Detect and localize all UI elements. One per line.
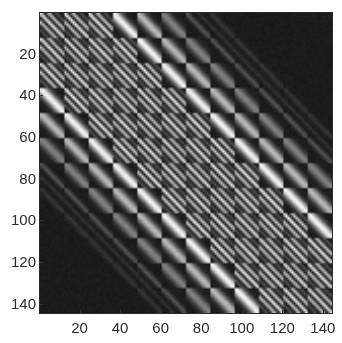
x-tick-label: 60 [152,320,169,335]
y-tick-mark [40,54,43,55]
heatmap-figure: 20 40 60 80 100 120 140 20 40 60 80 100 … [0,0,342,343]
y-tick-mark [40,262,43,263]
x-tick-label: 20 [71,320,88,335]
matrix-canvas [40,13,332,313]
x-tick-mark [201,310,202,313]
y-tick-label: 40 [19,87,36,102]
x-tick-label: 80 [193,320,210,335]
y-tick-label: 120 [11,254,36,269]
y-tick-mark [40,95,43,96]
x-tick-label: 140 [310,320,335,335]
y-tick-label: 20 [19,46,36,61]
matrix-image [40,13,332,313]
y-tick-mark [40,220,43,221]
y-tick-label: 80 [19,171,36,186]
x-tick-label: 100 [229,320,254,335]
y-tick-label: 60 [19,129,36,144]
x-tick-mark [242,310,243,313]
x-tick-mark [80,310,81,313]
x-tick-label: 120 [270,320,295,335]
y-tick-mark [40,137,43,138]
x-tick-mark [161,310,162,313]
y-tick-label: 100 [11,212,36,227]
y-tick-mark [40,304,43,305]
x-tick-mark [323,310,324,313]
x-tick-label: 40 [112,320,129,335]
y-tick-mark [40,179,43,180]
x-tick-mark [120,310,121,313]
x-tick-mark [282,310,283,313]
y-tick-label: 140 [11,296,36,311]
